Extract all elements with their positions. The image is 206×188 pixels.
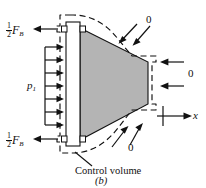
zero-arrow-right-a [160, 59, 184, 66]
nozzle-body-shape [80, 28, 148, 140]
figure-caption: (b) [95, 176, 107, 187]
bolt-force-arrow-top [33, 26, 58, 33]
bolt-top-right [80, 26, 86, 32]
zero-arrow-top-b [133, 26, 151, 46]
control-volume-leader [75, 152, 92, 166]
figure-control-volume: 1 2 FB 1 2 FB p1 0 0 0 x Control volume … [0, 0, 206, 188]
diagram-canvas [0, 0, 206, 188]
label-pressure: p1 [27, 80, 36, 93]
label-axis-x: x [193, 110, 198, 121]
flange-plate [66, 22, 80, 146]
label-bolt-force-top: 1 2 FB [6, 22, 24, 40]
bolt-bottom-left [62, 136, 68, 142]
axis-x-arrowhead [184, 112, 193, 119]
zero-arrow-right-b [160, 83, 184, 90]
label-control-volume: Control volume [75, 166, 141, 177]
axis-x [157, 106, 186, 126]
pressure-arrow-group [45, 47, 58, 125]
zero-arrow-top-a [119, 24, 138, 44]
label-zero-top: 0 [146, 14, 152, 25]
label-zero-bottom: 0 [128, 142, 134, 153]
bolt-bottom-right [80, 136, 86, 142]
zero-arrow-bottom-a [112, 126, 129, 147]
bolt-force-arrow-bottom [33, 136, 58, 143]
label-bolt-force-bottom: 1 2 FB [6, 132, 24, 150]
bolt-top-left [62, 26, 68, 32]
label-zero-right: 0 [188, 68, 194, 79]
